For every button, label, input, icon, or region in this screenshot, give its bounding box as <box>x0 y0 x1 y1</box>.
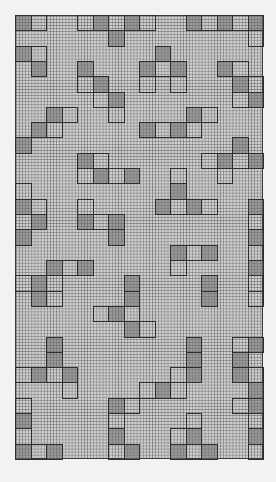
pattern-grid-chart <box>15 15 263 459</box>
outlined-block <box>248 413 265 429</box>
outlined-block <box>93 153 110 169</box>
outlined-block <box>139 321 156 337</box>
filled-block <box>186 352 203 368</box>
filled-block <box>201 291 218 307</box>
filled-block <box>46 260 63 276</box>
outlined-block <box>77 199 94 215</box>
outlined-block <box>155 61 172 77</box>
filled-block <box>31 275 48 291</box>
outlined-block <box>62 260 79 276</box>
outlined-block <box>232 153 249 169</box>
outlined-block <box>201 15 218 31</box>
outlined-block <box>201 199 218 215</box>
filled-block <box>155 46 172 62</box>
filled-block <box>31 367 48 383</box>
filled-block <box>46 352 63 368</box>
filled-block <box>46 107 63 123</box>
outlined-block <box>170 168 187 184</box>
filled-block <box>108 92 125 108</box>
outlined-block <box>186 245 203 261</box>
outlined-block <box>170 199 187 215</box>
outlined-block <box>170 76 187 92</box>
filled-block <box>124 15 141 31</box>
filled-block <box>77 260 94 276</box>
filled-block <box>248 260 265 276</box>
outlined-block <box>15 398 32 414</box>
outlined-block <box>62 107 79 123</box>
filled-block <box>124 168 141 184</box>
filled-block <box>62 367 79 383</box>
filled-block <box>31 214 48 230</box>
filled-block <box>108 398 125 414</box>
filled-block <box>248 92 265 108</box>
outlined-block <box>31 46 48 62</box>
filled-block <box>170 122 187 138</box>
outlined-block <box>232 398 249 414</box>
outlined-block <box>232 61 249 77</box>
outlined-block <box>155 122 172 138</box>
filled-block <box>15 199 32 215</box>
filled-block <box>15 229 32 245</box>
filled-block <box>232 352 249 368</box>
outlined-block <box>248 30 265 46</box>
filled-block <box>15 137 32 153</box>
outlined-block <box>46 367 63 383</box>
outlined-block <box>248 367 265 383</box>
filled-block <box>186 107 203 123</box>
filled-block <box>108 30 125 46</box>
filled-block <box>124 321 141 337</box>
filled-block <box>124 275 141 291</box>
filled-block <box>15 444 32 460</box>
outlined-block <box>186 413 203 429</box>
filled-block <box>217 153 234 169</box>
outlined-block <box>232 92 249 108</box>
filled-block <box>15 15 32 31</box>
outlined-block <box>108 444 125 460</box>
outlined-block <box>170 382 187 398</box>
filled-block <box>186 428 203 444</box>
filled-block <box>170 444 187 460</box>
filled-block <box>170 183 187 199</box>
outlined-block <box>186 444 203 460</box>
outlined-block <box>93 214 110 230</box>
filled-block <box>248 428 265 444</box>
outlined-block <box>232 15 249 31</box>
filled-block <box>46 337 63 353</box>
outlined-block <box>46 122 63 138</box>
outlined-block <box>232 337 249 353</box>
outlined-block <box>77 168 94 184</box>
outlined-block <box>139 76 156 92</box>
filled-block <box>31 61 48 77</box>
outlined-block <box>31 199 48 215</box>
outlined-block <box>31 15 48 31</box>
filled-block <box>201 275 218 291</box>
outlined-block <box>248 76 265 92</box>
outlined-block <box>15 275 32 291</box>
outlined-block <box>248 275 265 291</box>
filled-block <box>15 46 32 62</box>
filled-block <box>248 337 265 353</box>
filled-block <box>108 306 125 322</box>
outlined-block <box>170 367 187 383</box>
outlined-block <box>77 76 94 92</box>
filled-block <box>155 382 172 398</box>
outlined-block <box>31 444 48 460</box>
filled-block <box>186 337 203 353</box>
outlined-block <box>15 214 32 230</box>
filled-block <box>201 245 218 261</box>
filled-block <box>170 61 187 77</box>
outlined-block <box>201 107 218 123</box>
outlined-block <box>248 214 265 230</box>
filled-block <box>108 214 125 230</box>
outlined-block <box>124 306 141 322</box>
outlined-block <box>217 168 234 184</box>
outlined-block <box>170 260 187 276</box>
outlined-block <box>93 92 110 108</box>
filled-block <box>93 168 110 184</box>
outlined-block <box>248 245 265 261</box>
filled-block <box>232 137 249 153</box>
filled-block <box>232 76 249 92</box>
outlined-block <box>15 183 32 199</box>
filled-block <box>139 122 156 138</box>
filled-block <box>31 291 48 307</box>
